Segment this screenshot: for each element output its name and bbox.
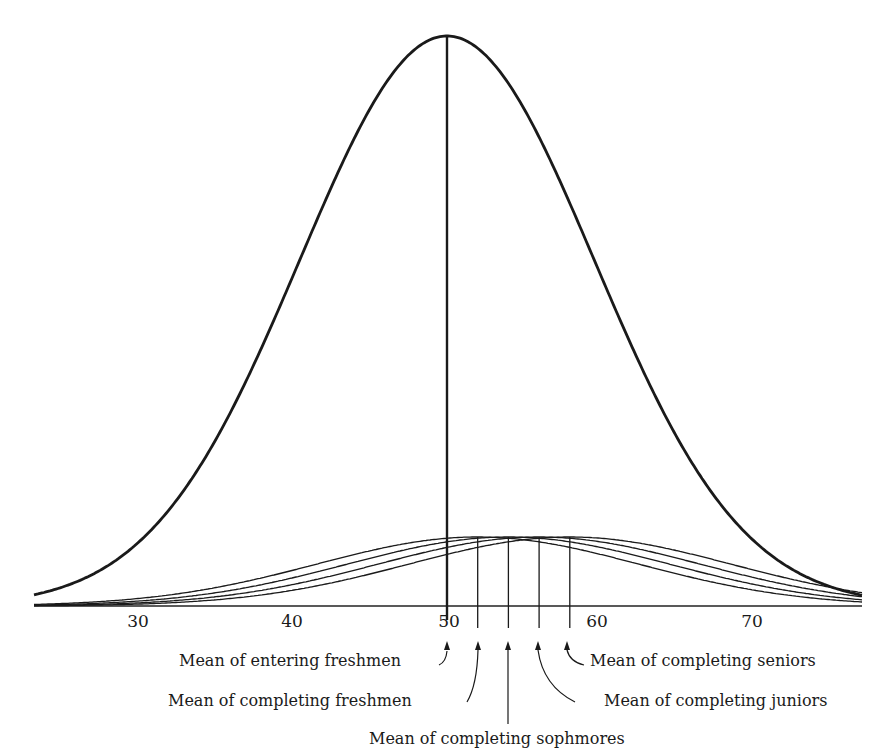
leader-completing-freshmen — [467, 650, 478, 702]
tick-50: 50 — [438, 611, 460, 631]
tick-40: 40 — [281, 611, 303, 631]
distribution-plot — [0, 0, 888, 752]
chart-figure: 30 40 50 60 70 Mean of entering freshmen… — [0, 0, 888, 752]
arrow-completing-juniors — [535, 641, 541, 650]
tick-30: 30 — [127, 611, 149, 631]
label-entering-freshmen: Mean of entering freshmen — [179, 651, 401, 670]
label-completing-freshmen: Mean of completing freshmen — [168, 691, 412, 710]
leader-completing-juniors — [538, 650, 575, 702]
leader-completing-seniors — [567, 650, 584, 665]
label-completing-juniors: Mean of completing juniors — [604, 691, 827, 710]
arrow-completing-freshmen — [475, 641, 481, 650]
leader-entering-freshmen — [439, 651, 447, 665]
label-completing-seniors: Mean of completing seniors — [590, 651, 816, 670]
tick-70: 70 — [741, 611, 763, 631]
label-completing-sophmores: Mean of completing sophmores — [369, 729, 625, 748]
arrow-completing-sophmores — [505, 641, 511, 650]
tick-60: 60 — [586, 611, 608, 631]
arrow-completing-seniors — [564, 641, 570, 650]
arrow-entering-freshmen — [444, 641, 450, 650]
